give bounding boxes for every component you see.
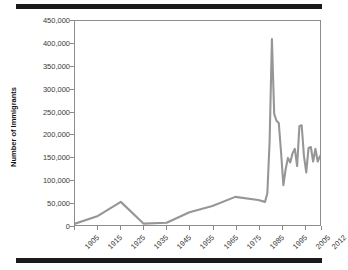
x-tick-label: 2005	[314, 233, 332, 251]
x-tick-label: 1965	[221, 233, 239, 251]
x-tick-label: 1985	[268, 233, 286, 251]
line-series-svg	[75, 21, 320, 225]
x-tick-label: 2012	[330, 233, 348, 251]
x-tick-label: 1905	[83, 233, 101, 251]
x-tick-label: 1915	[106, 233, 124, 251]
x-tick-label: 1925	[129, 233, 147, 251]
x-tick-label: 1945	[175, 233, 193, 251]
x-tick-label: 1955	[198, 233, 216, 251]
x-tick-label: 1995	[291, 233, 309, 251]
x-tick-label: 1975	[244, 233, 262, 251]
series-line-number-of-immigrants	[75, 39, 320, 224]
x-tick-label: 1935	[152, 233, 170, 251]
plot-area	[74, 20, 321, 226]
